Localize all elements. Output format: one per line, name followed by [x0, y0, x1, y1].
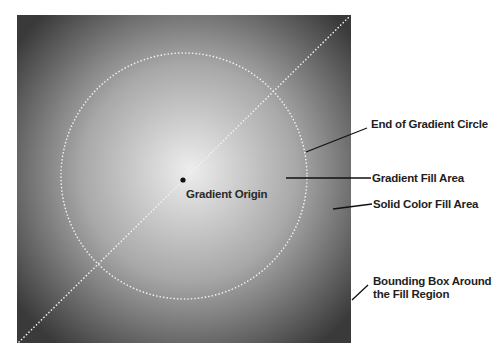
bounding-box-label-line1: Bounding Box Around: [373, 275, 492, 287]
gradient-diagram: Gradient Origin End of Gradient Circle G…: [0, 0, 501, 358]
gradient-origin-label: Gradient Origin: [186, 188, 268, 200]
end-circle-label: End of Gradient Circle: [371, 118, 488, 130]
bounding-box-leader: [352, 285, 368, 300]
gradient-origin-dot: [180, 177, 185, 182]
gradient-fill-label: Gradient Fill Area: [372, 172, 465, 184]
solid-fill-label: Solid Color Fill Area: [373, 198, 479, 210]
bounding-box-label-line2: the Fill Region: [373, 288, 449, 300]
